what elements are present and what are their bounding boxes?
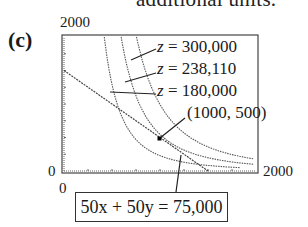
label-point: (1000, 500) bbox=[187, 104, 266, 121]
label-z238110: z = 238,110 bbox=[157, 60, 236, 77]
z1-value: = 300,000 bbox=[168, 37, 237, 56]
leader-point bbox=[160, 118, 185, 138]
z2-value: = 238,110 bbox=[168, 59, 236, 78]
leader-z300000 bbox=[131, 49, 156, 60]
optimal-point-marker bbox=[158, 137, 162, 141]
z-var: z bbox=[157, 37, 164, 56]
leader-z180000 bbox=[110, 92, 156, 94]
label-z300000: z = 300,000 bbox=[157, 38, 237, 55]
z3-value: = 180,000 bbox=[168, 81, 237, 100]
z-var: z bbox=[157, 81, 164, 100]
label-z180000: z = 180,000 bbox=[157, 82, 237, 99]
z-var: z bbox=[157, 59, 164, 78]
constraint-equation-box: 50x + 50y = 75,000 bbox=[75, 192, 228, 222]
